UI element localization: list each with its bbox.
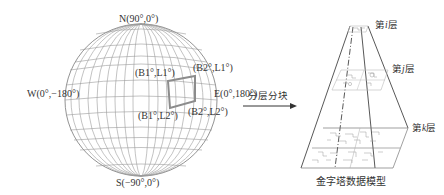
pyramid-level-i-label: 第i层: [375, 20, 398, 31]
pyramid-caption: 金字塔数据模型: [316, 177, 386, 187]
west-label: W(0°,−180°): [27, 89, 79, 99]
pyramid-level-k-label: 第k层: [412, 123, 436, 134]
pyramid-level-j-label: 第j层: [392, 64, 415, 75]
pyramid-icon: [301, 26, 408, 168]
level-prefix: 第: [392, 63, 402, 74]
tile-corner-top-left: (B1°,L1°): [135, 68, 175, 78]
level-suffix: 层: [388, 19, 398, 30]
tile-outline: [168, 76, 195, 108]
level-suffix: 层: [426, 122, 436, 133]
tile-corner-bottom-left: (B1°,L2°): [138, 111, 178, 121]
level-prefix: 第: [412, 122, 422, 133]
tile-corner-top-right: (B2°,L1°): [193, 63, 233, 73]
south-pole-label: S(−90°,0°): [116, 178, 159, 188]
arrow-icon: [243, 103, 297, 109]
tile-corner-bottom-right: (B2°,L2°): [188, 107, 228, 117]
arrow-label: 分层分块: [248, 91, 288, 101]
north-pole-label: N(90°,0°): [119, 14, 158, 24]
level-suffix: 层: [405, 63, 415, 74]
level-prefix: 第: [375, 19, 385, 30]
